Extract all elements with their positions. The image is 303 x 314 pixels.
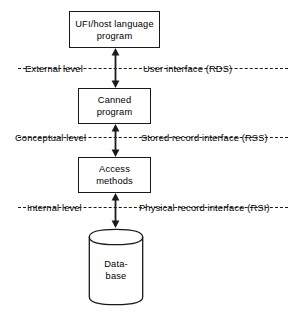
node-access-line-1: Access [99, 163, 130, 175]
node-access-methods: Access methods [78, 157, 151, 193]
node-ufi-host-language-program: UFI/host language program [69, 11, 160, 48]
level-row-conceptual: Conceptual level Stored record interface… [0, 131, 303, 145]
dashed-divider-external [18, 68, 288, 69]
node-ufi-line-2: program [97, 30, 133, 42]
node-ufi-line-1: UFI/host language [75, 18, 154, 30]
connector-ufi-canned [110, 48, 121, 88]
level-label-internal-right: Physical record interface (RSI) [138, 202, 271, 214]
connector-access-database [110, 193, 121, 228]
node-access-line-2: methods [96, 175, 133, 187]
dashed-divider-conceptual [18, 137, 288, 138]
level-label-internal-left: Internal level [26, 202, 83, 214]
level-row-internal: Internal level Physical record interface… [0, 201, 303, 215]
level-row-external: External level User interface (RDS) [0, 62, 303, 76]
node-database-line-2: base [88, 270, 144, 282]
level-label-external-right: User interface (RDS) [142, 63, 233, 75]
node-canned-line-2: program [97, 106, 133, 118]
node-canned-program: Canned program [78, 88, 151, 124]
level-label-external-left: External level [24, 63, 84, 75]
node-canned-line-1: Canned [98, 94, 131, 106]
level-label-conceptual-left: Conceptual level [14, 132, 87, 144]
architecture-diagram: UFI/host language program External level… [0, 0, 303, 314]
level-label-conceptual-right: Stored record interface (RSS) [140, 132, 269, 144]
node-database-line-1: Data- [88, 258, 144, 270]
dashed-divider-internal [18, 207, 288, 208]
node-database-label: Data- base [88, 258, 144, 282]
connector-canned-access [110, 124, 121, 157]
